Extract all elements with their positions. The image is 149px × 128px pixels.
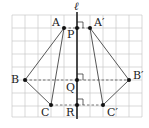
point-R (75, 103, 79, 107)
point-Q (75, 78, 79, 82)
label-P: P (67, 28, 75, 41)
point-P (75, 26, 79, 30)
label-R: R (66, 106, 75, 119)
symmetry-diagram: ℓ APA′BQB′CRC′ (0, 0, 149, 128)
label-A: A (51, 16, 61, 29)
label-C: C (41, 106, 49, 119)
axis-label: ℓ (74, 0, 79, 13)
point-B-prime (127, 78, 131, 82)
point-A-prime (88, 26, 92, 30)
label-B-prime: B′ (133, 69, 144, 82)
triangle-ABC (25, 28, 64, 105)
point-C-prime (101, 103, 105, 107)
label-Q: Q (66, 81, 75, 94)
point-B (23, 78, 27, 82)
label-A-prime: A′ (93, 16, 105, 29)
point-A (62, 26, 66, 30)
triangle-A'B'C' (90, 28, 129, 105)
point-C (49, 103, 53, 107)
label-C-prime: C′ (107, 106, 118, 119)
label-B: B (11, 73, 19, 86)
right-angle-marks (77, 22, 83, 105)
